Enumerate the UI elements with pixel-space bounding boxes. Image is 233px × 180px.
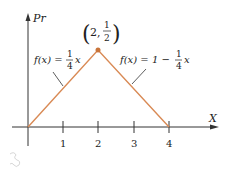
svg-text:f(x) = 1 −: f(x) = 1 −	[119, 54, 170, 65]
svg-text:x: x	[75, 54, 81, 65]
svg-text:4: 4	[176, 61, 182, 71]
right-function-label: f(x) = 1 − 1 4 x	[119, 49, 190, 71]
x-axis-arrow-icon	[210, 125, 219, 130]
right-function-leader	[132, 69, 146, 84]
svg-text:1: 1	[176, 49, 182, 59]
svg-text:2: 2	[104, 33, 110, 43]
x-axis-label: X	[208, 112, 218, 125]
svg-text:2,: 2,	[90, 26, 101, 39]
svg-text:4: 4	[67, 61, 73, 71]
left-function-leader	[53, 72, 63, 86]
peak-point	[96, 48, 101, 53]
left-function-label: f(x) = 1 4 x	[33, 49, 81, 71]
x-tick-label-3: 3	[131, 138, 137, 149]
x-tick-label-2: 2	[95, 138, 101, 149]
peak-label: ( 2, 1 2 )	[82, 20, 121, 46]
scribble-mark	[10, 153, 20, 167]
x-tick-label-1: 1	[60, 138, 66, 149]
triangular-distribution-diagram: Pr X 1 2 3 4 ( 2, 1 2 ) f(x) = 1 4 x f(x…	[0, 0, 233, 180]
y-axis-label: Pr	[32, 12, 46, 25]
svg-text:f(x) =: f(x) =	[33, 54, 63, 65]
svg-text:1: 1	[67, 49, 73, 59]
svg-text:x: x	[184, 54, 190, 65]
svg-text:1: 1	[104, 20, 110, 30]
svg-text:): )	[112, 21, 121, 46]
x-tick-label-4: 4	[166, 138, 172, 149]
y-axis-arrow-icon	[26, 13, 31, 21]
